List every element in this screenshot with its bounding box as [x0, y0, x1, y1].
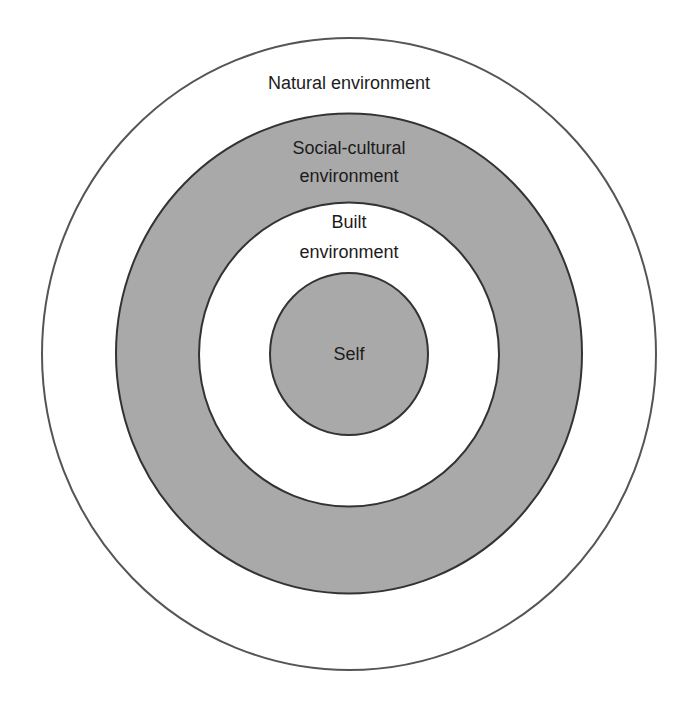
built-environment-label-line2: environment — [299, 242, 398, 262]
self-label: Self — [333, 344, 365, 364]
concentric-diagram: Natural environment Social-cultural envi… — [0, 0, 683, 702]
natural-environment-label: Natural environment — [268, 73, 430, 93]
built-environment-label-line1: Built — [331, 212, 366, 232]
social-cultural-label-line2: environment — [299, 166, 398, 186]
social-cultural-label-line1: Social-cultural — [292, 138, 405, 158]
